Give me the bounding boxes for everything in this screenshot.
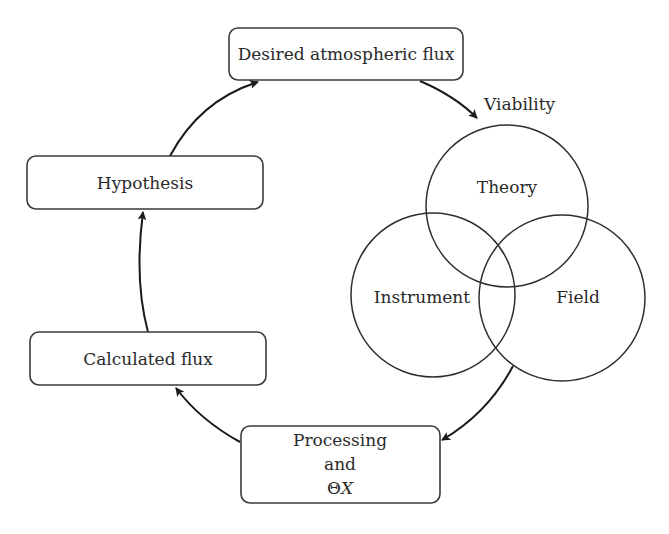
circle-instrument-label: Instrument bbox=[374, 287, 470, 307]
node-hypothesis-label: Hypothesis bbox=[97, 173, 193, 193]
node-desired-atmospheric-flux: Desired atmospheric flux bbox=[229, 28, 463, 80]
node-desired-atmospheric-flux-label: Desired atmospheric flux bbox=[238, 44, 455, 64]
variable-x: X bbox=[339, 478, 354, 498]
node-calculated-flux: Calculated flux bbox=[30, 332, 266, 385]
arrow-calculated-flux-to-hypothesis bbox=[139, 212, 148, 332]
circle-field-label: Field bbox=[556, 287, 600, 307]
circle-theory bbox=[426, 125, 588, 287]
viability-title: Viability bbox=[483, 94, 556, 114]
theta-symbol: Θ bbox=[327, 478, 341, 498]
node-processing-line2: and bbox=[324, 454, 356, 474]
arrow-viability-to-processing bbox=[442, 366, 513, 440]
arrow-processing-to-calculated-flux bbox=[176, 388, 240, 442]
node-processing-line3: ΘX bbox=[327, 478, 354, 498]
circle-theory-label: Theory bbox=[477, 177, 538, 197]
arrow-hypothesis-to-desired-flux bbox=[170, 82, 258, 156]
node-calculated-flux-label: Calculated flux bbox=[83, 349, 213, 369]
research-cycle-diagram: Desired atmospheric flux Hypothesis Calc… bbox=[0, 0, 669, 534]
viability-venn: Viability Theory Instrument Field bbox=[351, 94, 645, 381]
node-hypothesis: Hypothesis bbox=[27, 156, 263, 209]
node-processing: Processing and ΘX bbox=[241, 426, 440, 503]
node-processing-line1: Processing bbox=[293, 430, 387, 450]
arrow-desired-flux-to-viability bbox=[420, 81, 477, 118]
